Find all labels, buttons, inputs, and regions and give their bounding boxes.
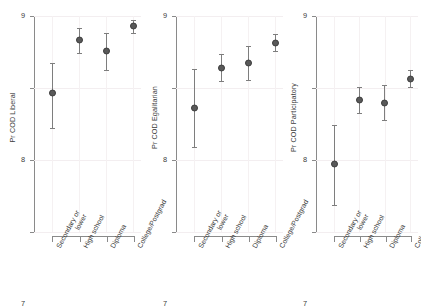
error-bar-cap-upper [357,87,362,88]
error-bar-cap-upper [219,54,224,55]
data-point-marker[interactable] [191,105,198,112]
plot-area: 6789 Secondary orlowerHigh schoolDiploma… [34,16,139,232]
data-series [176,16,281,232]
error-bar-cap-upper [332,125,337,126]
data-point-marker[interactable] [49,90,56,97]
data-point-marker[interactable] [103,48,110,55]
error-bar-cap-lower [382,120,387,121]
error-bar-cap-upper [382,85,387,86]
data-point-marker[interactable] [381,100,388,107]
error-bar-cap-lower [77,53,82,54]
x-axis-labels: Secondary orlowerHigh schoolDiplomaColle… [176,242,281,308]
error-bar-cap-upper [408,70,413,71]
data-point-marker[interactable] [272,39,279,46]
y-axis-tick: 6 [172,232,176,233]
data-point-group[interactable] [407,16,414,232]
y-axis-tick-label: 8 [163,156,167,163]
data-series [316,16,416,232]
panel-participatory: Pr COD Participatory 6789 Secondary orlo… [282,0,421,308]
data-point-group[interactable] [49,16,56,232]
data-point-group[interactable] [331,16,338,232]
y-axis-tick-label: 7 [163,300,167,307]
y-axis-title: Pr COD Egalitarian [146,0,162,235]
data-point-group[interactable] [191,16,198,232]
y-axis-tick: 6 [312,232,316,233]
plot-area: 6789 Secondary orlowerHigh schoolDiploma… [176,16,281,232]
y-axis-tick-label: 7 [21,300,25,307]
data-point-marker[interactable] [130,23,137,30]
panel-egalitarian: Pr COD Egalitarian 6789 Secondary orlowe… [142,0,287,308]
error-bar-cap-lower [408,87,413,88]
error-bar-cap-upper [50,63,55,64]
error-bar-cap-lower [219,81,224,82]
y-axis-tick-label: 9 [21,12,25,19]
error-bar-cap-lower [104,70,109,71]
data-point-group[interactable] [76,16,83,232]
error-bar-cap-upper [131,20,136,21]
error-bar-cap-lower [273,51,278,52]
y-axis-tick: 6 [30,232,34,233]
error-bar-cap-upper [104,33,109,34]
error-bar-cap-lower [131,33,136,34]
data-point-group[interactable] [356,16,363,232]
x-axis-labels: Secondary orlowerHigh schoolDiplomaColle… [34,242,139,308]
data-point-marker[interactable] [356,97,363,104]
data-point-group[interactable] [381,16,388,232]
panel-liberal: Pr COD Liberal 6789 Secondary orlowerHig… [0,0,145,308]
error-bar-cap-lower [192,147,197,148]
data-point-group[interactable] [130,16,137,232]
y-axis-tick-label: 9 [303,12,307,19]
data-point-marker[interactable] [331,161,338,168]
data-point-group[interactable] [218,16,225,232]
error-bar-cap-upper [192,69,197,70]
error-bar-cap-lower [246,80,251,81]
data-point-group[interactable] [245,16,252,232]
chart-figure: Pr COD Liberal 6789 Secondary orlowerHig… [0,0,421,308]
y-axis-title: Pr COD Liberal [4,0,20,235]
plot-area: 6789 Secondary orlowerHigh schoolDiploma… [316,16,416,232]
error-bar-cap-lower [50,128,55,129]
x-axis-labels: Secondary orlowerHigh schoolDiplomaColle… [316,242,416,308]
y-axis-tick-label: 8 [303,156,307,163]
y-axis-title: Pr COD Participatory [286,0,302,235]
data-series [34,16,139,232]
error-bar-cap-upper [246,46,251,47]
data-point-group[interactable] [272,16,279,232]
data-point-marker[interactable] [245,59,252,66]
data-point-group[interactable] [103,16,110,232]
error-bar-cap-upper [273,34,278,35]
y-axis-tick-label: 9 [163,12,167,19]
y-axis-tick-label: 8 [21,156,25,163]
data-point-marker[interactable] [407,75,414,82]
data-point-marker[interactable] [218,64,225,71]
error-bar-cap-upper [77,28,82,29]
data-point-marker[interactable] [76,37,83,44]
y-axis-tick-label: 7 [303,300,307,307]
error-bar-cap-lower [357,113,362,114]
error-bar-cap-lower [332,205,337,206]
